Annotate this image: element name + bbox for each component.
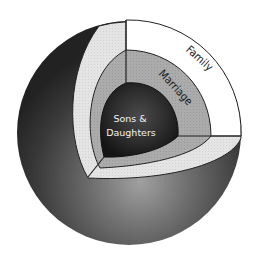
core-label-line2: Daughters [106, 127, 156, 138]
core-label-line1: Sons & [113, 113, 147, 124]
family-sphere-diagram: Family Marriage Sons & Daughters [0, 0, 257, 260]
